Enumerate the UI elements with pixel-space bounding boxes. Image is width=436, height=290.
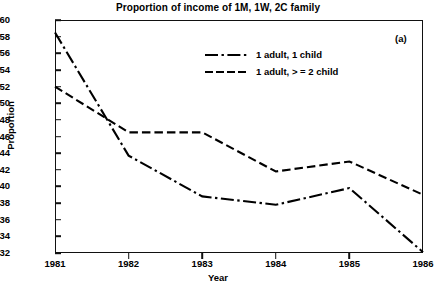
y-tick-mark — [55, 152, 61, 154]
legend-label-1: 1 adult, 1 child — [256, 49, 322, 60]
y-tick-mark — [55, 36, 61, 38]
y-tick-mark — [55, 86, 61, 88]
chart-title: Proportion of income of 1M, 1W, 2C famil… — [0, 2, 436, 13]
y-tick-mark — [55, 236, 61, 238]
y-tick-mark — [55, 19, 61, 21]
x-tick-label: 1984 — [246, 258, 306, 269]
legend-item-1-adult-2plus-child: 1 adult, > = 2 child — [205, 63, 338, 80]
x-tick-label: 1981 — [25, 258, 85, 269]
y-tick-mark — [55, 102, 61, 104]
chart-figure: Proportion of income of 1M, 1W, 2C famil… — [0, 0, 436, 290]
y-tick-label: 0.52 — [0, 82, 10, 92]
y-tick-mark — [55, 219, 61, 221]
dashed-line-icon — [205, 67, 249, 77]
y-tick-label: 0.42 — [0, 165, 10, 175]
y-tick-mark — [55, 202, 61, 204]
y-tick-mark — [55, 169, 61, 171]
y-tick-label: 0.50 — [0, 98, 10, 108]
y-tick-label: 0.60 — [0, 15, 10, 25]
y-tick-label: 0.58 — [0, 32, 10, 42]
y-tick-mark — [55, 252, 61, 254]
y-tick-mark — [55, 136, 61, 138]
x-tick-label: 1982 — [99, 258, 159, 269]
y-tick-label: 0.36 — [0, 215, 10, 225]
y-tick-label: 0.34 — [0, 232, 10, 242]
y-tick-label: 0.48 — [0, 115, 10, 125]
y-tick-mark — [55, 69, 61, 71]
y-tick-label: 0.38 — [0, 198, 10, 208]
panel-annotation: (a) — [395, 33, 407, 44]
x-axis-label: Year — [0, 272, 436, 283]
y-tick-mark — [55, 119, 61, 121]
x-tick-label: 1983 — [172, 258, 232, 269]
x-tick-mark — [201, 253, 203, 259]
x-tick-mark — [349, 253, 351, 259]
y-tick-label: 0.32 — [0, 248, 10, 258]
legend-label-2: 1 adult, > = 2 child — [256, 66, 338, 77]
y-tick-mark — [55, 52, 61, 54]
legend-item-1-adult-1-child: 1 adult, 1 child — [205, 46, 338, 63]
x-tick-mark — [275, 253, 277, 259]
x-tick-label: 1985 — [319, 258, 379, 269]
y-tick-label: 0.40 — [0, 182, 10, 192]
dashdot-line-icon — [205, 50, 249, 60]
y-tick-mark — [55, 186, 61, 188]
y-tick-label: 0.46 — [0, 132, 10, 142]
x-tick-label: 1986 — [393, 258, 436, 269]
y-tick-label: 0.56 — [0, 49, 10, 59]
y-tick-label: 0.44 — [0, 148, 10, 158]
x-tick-mark — [128, 253, 130, 259]
y-tick-label: 0.54 — [0, 65, 10, 75]
chart-legend: 1 adult, 1 child 1 adult, > = 2 child — [205, 46, 338, 80]
